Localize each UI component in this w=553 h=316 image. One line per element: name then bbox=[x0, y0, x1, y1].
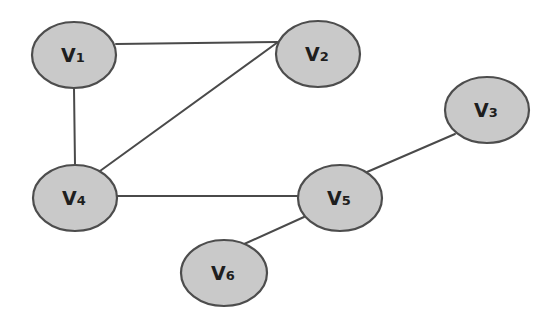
edge-v5-v6 bbox=[242, 217, 304, 245]
edges-layer bbox=[74, 42, 455, 245]
edge-v5-v3 bbox=[367, 134, 455, 172]
edge-v1-v2 bbox=[116, 42, 277, 44]
node-v5: V5 bbox=[298, 165, 382, 231]
edge-v4-v2 bbox=[100, 42, 278, 171]
node-v3: V3 bbox=[445, 77, 529, 143]
node-v4: V4 bbox=[33, 165, 117, 231]
node-v1: V1 bbox=[32, 22, 116, 88]
nodes-layer: V1V2V3V4V5V6 bbox=[32, 21, 529, 306]
graph-diagram: V1V2V3V4V5V6 bbox=[0, 0, 553, 316]
node-v2: V2 bbox=[276, 21, 360, 87]
node-v6: V6 bbox=[181, 240, 267, 306]
edge-v1-v4 bbox=[74, 88, 75, 165]
